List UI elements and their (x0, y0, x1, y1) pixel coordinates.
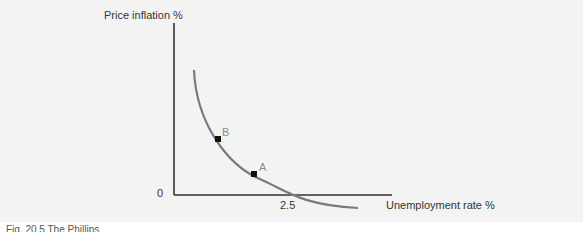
point-b-marker (215, 136, 221, 142)
figure-caption: Fig. 20.5 The Phillips (6, 224, 99, 232)
y-axis-label: Price inflation % (104, 9, 183, 21)
x-axis-label: Unemployment rate % (386, 199, 495, 211)
x-tick-label: 2.5 (280, 199, 295, 211)
point-a-marker (251, 171, 257, 177)
origin-label: 0 (157, 187, 163, 199)
point-b-label: B (222, 126, 229, 138)
point-a-label: A (259, 161, 266, 173)
phillips-curve-chart (0, 0, 583, 232)
